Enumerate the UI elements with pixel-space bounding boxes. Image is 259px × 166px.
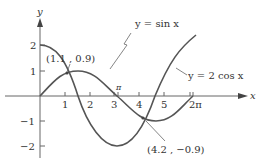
x-axis-label: x (250, 90, 256, 101)
y-tick-label: −2 (20, 141, 35, 152)
sin-leader (110, 33, 131, 69)
x-tick-label: 2 (87, 99, 93, 110)
leader-line (146, 121, 165, 141)
x-tick-label: 1 (62, 99, 68, 110)
chart: 1 2 3 π 4 5 2π 2 1 −1 −2 y x (1.1 , 0.9)… (0, 0, 259, 166)
y-tick-label: −1 (20, 116, 35, 127)
y-tick-label: 2 (30, 40, 36, 51)
y-axis-label: y (36, 6, 43, 17)
cos-label: y = 2 cos x (187, 70, 244, 81)
x-axis-arrow-icon (238, 93, 248, 99)
x-tick-label-pi: π (115, 83, 122, 92)
y-tick-label: 1 (30, 66, 36, 77)
point-label-2: (4.2 , −0.9) (147, 144, 205, 155)
x-tick-label-2pi: 2π (189, 99, 202, 110)
point-label-1: (1.1 , 0.9) (46, 53, 95, 64)
x-tick-label: 4 (136, 99, 142, 110)
sin-label: y = sin x (134, 18, 179, 29)
y-axis-arrow-icon (37, 18, 43, 27)
x-tick-label: 5 (161, 99, 167, 110)
cos-leader (176, 68, 187, 75)
x-tick-label: 3 (111, 99, 117, 110)
x-ticks (65, 92, 193, 96)
intersection-point (141, 116, 144, 119)
